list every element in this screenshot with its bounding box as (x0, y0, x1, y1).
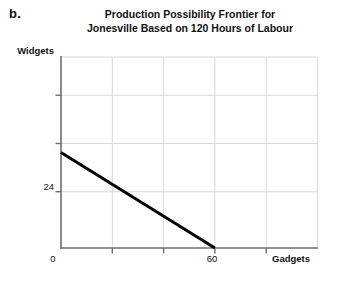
data-series-group (61, 153, 215, 249)
gridlines (61, 57, 318, 248)
plot-area (0, 0, 338, 282)
axis-ticks (56, 95, 267, 253)
ppf-line (61, 153, 215, 249)
axis-lines (60, 56, 318, 249)
ppf-figure: b. Production Possibility Frontier for J… (0, 0, 338, 282)
